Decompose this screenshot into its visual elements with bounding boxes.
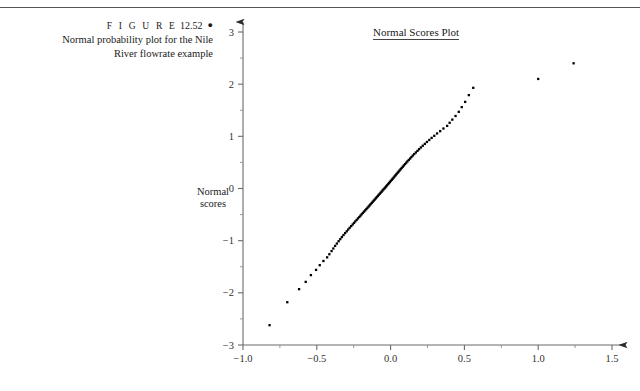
y-tick-label: −1	[223, 235, 234, 246]
data-point	[433, 135, 435, 137]
data-point	[446, 125, 448, 127]
data-point	[330, 250, 332, 252]
x-tick-label: 0.5	[458, 353, 471, 364]
data-point	[310, 274, 312, 276]
data-point	[286, 301, 288, 303]
normal-scores-scatter-plot: −3−2−10123−1.0−0.50.00.51.01.5	[0, 0, 640, 391]
data-point	[315, 269, 317, 271]
data-point	[319, 264, 321, 266]
data-point	[537, 78, 539, 80]
data-point	[298, 288, 300, 290]
tick-labels-group: −3−2−10123−1.0−0.50.00.51.01.5	[223, 27, 619, 364]
data-point	[451, 118, 453, 120]
data-point	[337, 240, 339, 242]
y-tick-label: 1	[229, 131, 234, 142]
data-point	[458, 111, 460, 113]
y-tick-label: −3	[223, 340, 234, 351]
data-point	[454, 115, 456, 117]
y-tick-label: 2	[229, 79, 234, 90]
data-point	[461, 106, 463, 108]
data-point	[436, 132, 438, 134]
ticks-group	[238, 32, 612, 350]
data-point	[426, 141, 428, 143]
x-tick-label: 0.0	[384, 353, 397, 364]
data-point	[472, 87, 474, 89]
data-point	[468, 94, 470, 96]
data-point	[464, 101, 466, 103]
y-tick-label: 3	[229, 27, 234, 38]
x-tick-label: 1.5	[605, 353, 618, 364]
data-point	[268, 324, 270, 326]
data-points-group	[268, 62, 574, 326]
axes-group	[243, 22, 626, 345]
data-point	[336, 242, 338, 244]
data-point	[428, 139, 430, 141]
data-point	[305, 281, 307, 283]
data-point	[442, 127, 444, 129]
data-point	[326, 256, 328, 258]
x-tick-label: 1.0	[532, 353, 545, 364]
data-point	[341, 236, 343, 238]
data-point	[430, 137, 432, 139]
x-tick-label: −1.0	[233, 353, 252, 364]
x-tick-label: −0.5	[307, 353, 326, 364]
data-point	[339, 238, 341, 240]
plot-svg-canvas: −3−2−10123−1.0−0.50.00.51.01.5	[0, 0, 640, 391]
data-point	[422, 145, 424, 147]
data-point	[332, 247, 334, 249]
y-tick-label: 0	[229, 183, 234, 194]
data-point	[334, 245, 336, 247]
data-point	[328, 253, 330, 255]
data-point	[448, 122, 450, 124]
data-point	[572, 62, 574, 64]
y-tick-label: −2	[223, 287, 234, 298]
data-point	[424, 143, 426, 145]
data-point	[439, 130, 441, 132]
data-point	[322, 260, 324, 262]
